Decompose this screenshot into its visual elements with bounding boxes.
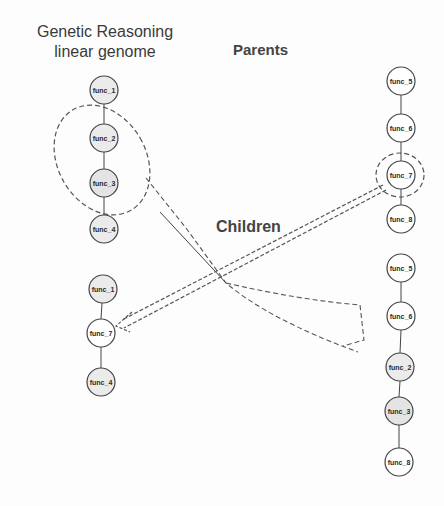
gene-node: func_2 <box>386 353 414 381</box>
svg-text:func_6: func_6 <box>390 125 413 132</box>
svg-text:func_8: func_8 <box>388 459 411 466</box>
gene-node: func_5 <box>387 254 415 282</box>
svg-text:func_4: func_4 <box>90 379 113 386</box>
gene-node: func_3 <box>90 169 118 197</box>
svg-text:func_7: func_7 <box>90 330 113 337</box>
gene-node: func_1 <box>89 275 117 303</box>
genome-crossover-diagram: Genetic Reasoning linear genome Parents … <box>0 0 444 506</box>
svg-text:func_7: func_7 <box>390 172 413 179</box>
svg-text:func_6: func_6 <box>390 313 413 320</box>
gene-node: func_4 <box>87 368 115 396</box>
gene-node: func_8 <box>385 448 413 476</box>
selection-ellipse-left <box>35 88 169 232</box>
svg-text:func_1: func_1 <box>93 87 116 94</box>
gene-node: func_7 <box>387 161 415 189</box>
svg-text:func_3: func_3 <box>93 180 116 187</box>
gene-node: func_1 <box>90 76 118 104</box>
child-right-genome: func_5 func_6 func_2 func_3 func_8 <box>385 254 415 476</box>
gene-node: func_7 <box>87 319 115 347</box>
svg-text:func_2: func_2 <box>93 135 116 142</box>
svg-text:func_1: func_1 <box>92 286 115 293</box>
crossover-arrow-right-to-left <box>116 185 386 332</box>
gene-node: func_5 <box>387 67 415 95</box>
svg-text:func_5: func_5 <box>390 265 413 272</box>
diagram-graphics: func_1 func_2 func_3 func_4 func_5 func_… <box>0 0 444 506</box>
crossover-arrow-left-to-right <box>146 178 364 352</box>
gene-node: func_6 <box>387 302 415 330</box>
gene-node: func_2 <box>90 124 118 152</box>
gene-node: func_3 <box>385 397 413 425</box>
svg-text:func_3: func_3 <box>388 408 411 415</box>
connectors <box>101 95 401 448</box>
gene-node: func_6 <box>387 114 415 142</box>
child-left-genome: func_1 func_7 func_4 <box>87 275 117 396</box>
svg-text:func_4: func_4 <box>93 226 116 233</box>
svg-text:func_8: func_8 <box>390 216 413 223</box>
svg-text:func_5: func_5 <box>390 78 413 85</box>
svg-text:func_2: func_2 <box>389 364 412 371</box>
gene-node: func_4 <box>90 215 118 243</box>
gene-node: func_8 <box>387 205 415 233</box>
solid-tail-line <box>160 212 226 283</box>
